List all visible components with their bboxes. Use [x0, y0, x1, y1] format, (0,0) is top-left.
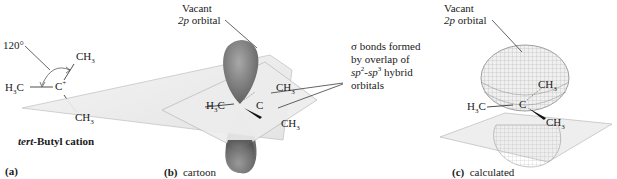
panel-c-carbon: C [519, 98, 526, 110]
panel-c-h3c-left: H3C [467, 100, 486, 112]
panel-b-carbon: C [256, 99, 263, 111]
ch3-top-label: CH3 [76, 50, 95, 62]
sigma-note-line4: orbitals [351, 79, 384, 91]
panel-b-ch3-top: CH3 [276, 81, 295, 93]
panel-b-2p-orbital-label: 2p orbital [178, 14, 220, 26]
sigma-note-line2: by overlap of [351, 53, 410, 65]
panel-c-ch3-bottom: CH3 [546, 116, 565, 128]
panel-b-caption: (b) cartoon [164, 166, 216, 178]
carbocation-center: C+ [55, 80, 66, 92]
panel-c-caption: (c) calculated [452, 166, 514, 178]
angle-label: 120° [3, 39, 24, 51]
tert-butyl-caption: tert-Butyl cation [18, 135, 94, 147]
panel-c-vacant-label: Vacant [444, 2, 474, 14]
panel-b-vacant-label: Vacant [182, 2, 212, 14]
diagram-graphics [0, 0, 617, 179]
panel-a-label: (a) [5, 165, 18, 177]
panel-c-orbital [440, 20, 612, 167]
h3c-left-label: H3C [5, 81, 24, 93]
sigma-note-line1: σ bonds formed [351, 40, 420, 52]
panel-b-orbital [22, 20, 343, 173]
panel-c-ch3-top: CH3 [538, 78, 557, 90]
panel-c-2p-orbital-label: 2p orbital [444, 14, 486, 26]
panel-b-ch3-bottom: CH3 [281, 117, 300, 129]
sigma-note-line3: sp2-sp3 hybrid [351, 66, 413, 78]
ch3-bottom-label: CH3 [75, 111, 94, 123]
panel-b-h3c-left: H3C [206, 99, 225, 111]
